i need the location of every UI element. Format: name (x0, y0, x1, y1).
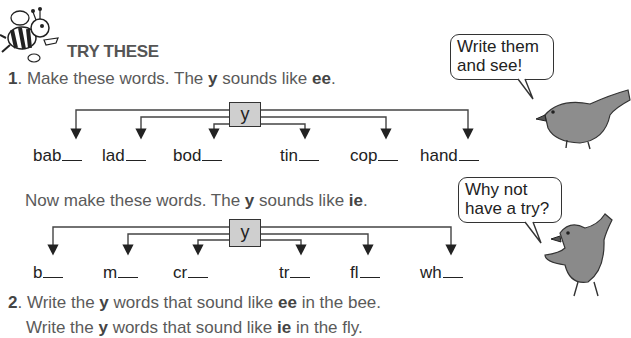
bird-icon (0, 0, 631, 331)
